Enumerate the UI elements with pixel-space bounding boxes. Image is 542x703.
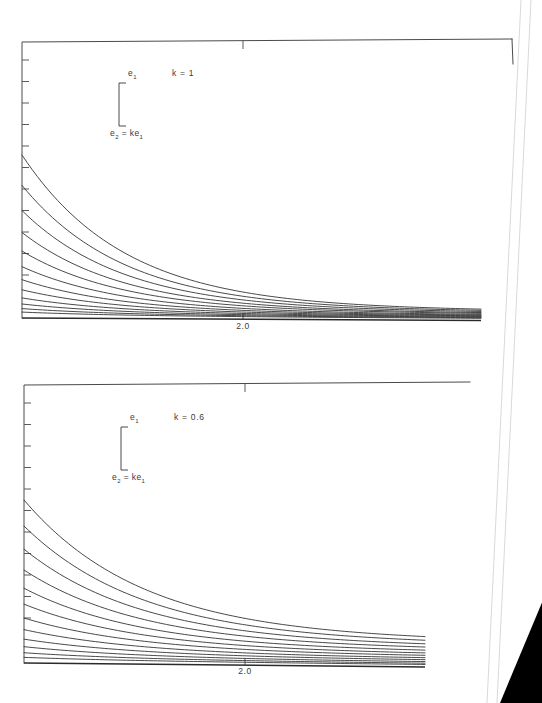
x-tick-label: 2.0 <box>238 666 252 676</box>
scanned-page: e1e2 = ke1k = 12.0 e1e2 = ke1k = 0.62.0 <box>0 0 542 703</box>
x-tick-label: 2.0 <box>236 321 250 331</box>
label-e2-equals-ke1: e2 = ke1 <box>110 128 144 140</box>
figure-canvas: e1e2 = ke1k = 12.0 e1e2 = ke1k = 0.62.0 <box>0 0 542 703</box>
label-e2-equals-ke1: e2 = ke1 <box>112 472 146 484</box>
label-k-value: k = 0.6 <box>174 412 205 422</box>
paper-background <box>0 0 542 703</box>
label-k-value: k = 1 <box>172 68 194 78</box>
